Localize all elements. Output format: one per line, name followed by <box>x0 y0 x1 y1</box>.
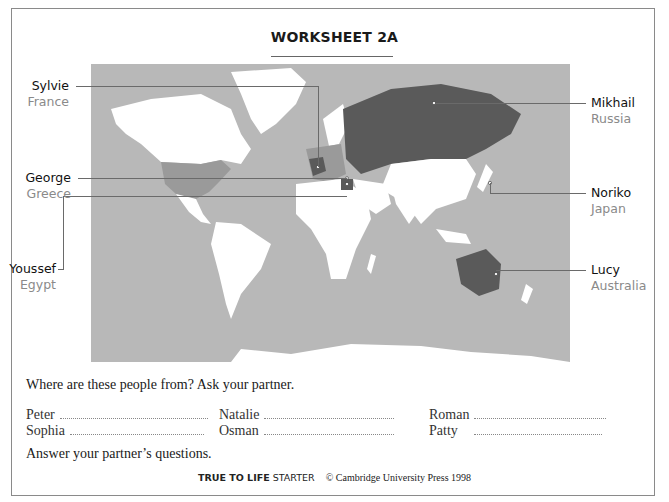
person-name: Noriko <box>591 185 631 201</box>
leader-noriko <box>490 193 586 194</box>
leader-noriko-rise <box>490 183 491 193</box>
answer-row-peter[interactable]: Peter <box>26 407 208 423</box>
answer-row-roman[interactable]: Roman <box>429 407 606 423</box>
person-name: Youssef <box>9 261 56 277</box>
person-country: Egypt <box>9 277 56 293</box>
landmass-new-zealand <box>521 284 533 304</box>
footer-copyright: © Cambridge University Press 1998 <box>326 472 471 483</box>
person-label-george: George Greece <box>25 170 71 202</box>
person-country: Australia <box>591 278 646 294</box>
leader-mikhail <box>436 103 586 104</box>
landmass-madagascar <box>367 254 376 274</box>
answer-blank[interactable] <box>60 407 208 419</box>
footer-brand-bold: TRUE TO LIFE <box>198 472 270 483</box>
world-map-graphic <box>91 64 570 362</box>
landmass-south-america <box>211 222 271 319</box>
person-label-sylvie: Sylvie France <box>27 78 69 110</box>
leader-youssef-drop <box>63 196 64 270</box>
leader-george <box>78 178 347 179</box>
landmass-antarctica <box>231 344 570 362</box>
landmass-central-america <box>176 194 211 224</box>
person-country: Greece <box>25 186 71 202</box>
person-name: George <box>25 170 71 186</box>
leader-sylvie-drop <box>318 86 319 167</box>
answer-name: Roman <box>429 407 469 423</box>
person-country: France <box>27 94 69 110</box>
exercise-instruction: Where are these people from? Ask your pa… <box>26 377 294 393</box>
person-label-noriko: Noriko Japan <box>591 185 631 217</box>
exercise-closing: Answer your partner’s questions. <box>26 446 212 462</box>
answer-row-sophia[interactable]: Sophia <box>26 423 204 439</box>
answer-blank[interactable] <box>474 423 602 435</box>
answer-name: Natalie <box>219 407 259 423</box>
answer-blank[interactable] <box>264 407 394 419</box>
answer-name: Osman <box>219 423 259 439</box>
person-label-youssef: Youssef Egypt <box>9 261 56 293</box>
answer-blank[interactable] <box>70 423 204 435</box>
leader-youssef-stub <box>58 269 64 270</box>
person-label-mikhail: Mikhail Russia <box>591 95 635 127</box>
answer-name: Peter <box>26 407 55 423</box>
answer-row-patty[interactable]: Patty <box>429 423 602 439</box>
person-label-lucy: Lucy Australia <box>591 262 646 294</box>
person-name: Sylvie <box>27 78 69 94</box>
person-name: Mikhail <box>591 95 635 111</box>
landmass-southeast-asia <box>436 229 471 244</box>
leader-sylvie <box>76 86 318 87</box>
country-australia <box>456 249 501 296</box>
landmass-greenland <box>231 68 306 134</box>
answer-name: Sophia <box>26 423 65 439</box>
person-country: Japan <box>591 201 631 217</box>
answer-row-natalie[interactable]: Natalie <box>219 407 394 423</box>
person-name: Lucy <box>591 262 646 278</box>
leader-lucy <box>496 270 586 271</box>
answer-blank[interactable] <box>474 407 606 419</box>
answer-blank[interactable] <box>264 423 394 435</box>
worksheet-title: WORKSHEET 2A <box>0 29 669 45</box>
landmass-north-america-north <box>111 94 251 164</box>
person-country: Russia <box>591 111 635 127</box>
answer-name: Patty <box>429 423 458 439</box>
footer: TRUE TO LIFE STARTER © Cambridge Univers… <box>0 472 669 483</box>
answer-row-osman[interactable]: Osman <box>219 423 394 439</box>
leader-youssef <box>63 196 347 197</box>
marker-australia <box>494 272 497 275</box>
country-usa <box>161 160 231 199</box>
title-underline <box>271 56 393 57</box>
footer-brand-light: STARTER <box>273 472 315 483</box>
marker-egypt <box>345 182 348 185</box>
world-map <box>91 64 570 362</box>
